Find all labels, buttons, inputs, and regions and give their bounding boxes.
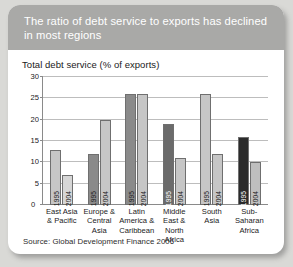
bar-year-label: 1995 [202,191,209,206]
bar: 1995 [163,124,174,205]
bar-year-label: 1995 [165,191,172,206]
chart-body: Total debt service (% of exports) 510152… [8,50,284,254]
bar: 2004 [100,120,111,205]
bar-year-label: 2004 [139,191,146,206]
y-axis-tick-label: 25 [31,93,39,102]
y-axis-tick-label: 15 [31,136,39,145]
page-title: The ratio of debt service to exports has… [24,14,270,42]
bar-year-label: 2004 [214,191,221,206]
bar: 1995 [200,94,211,205]
y-axis-tick-label: 30 [31,72,39,81]
bar-year-label: 1995 [52,191,59,206]
bar-year-label: 1995 [90,191,97,206]
source-note: Source: Global Development Finance 2006 [23,237,174,246]
bar-year-label: 2004 [252,191,259,206]
bar-group: 19952004 [231,76,269,205]
bar-group: 19952004 [118,76,156,205]
bar: 2004 [250,162,261,205]
y-axis-tick-label: 10 [31,157,39,166]
bar-group: 19952004 [43,76,81,205]
bar: 1995 [50,150,61,205]
bar-year-label: 1995 [127,191,134,206]
bar-year-label: 2004 [177,191,184,206]
bar-group: 19952004 [81,76,119,205]
y-axis-tick-label: 5 [35,178,39,187]
bar: 2004 [175,158,186,205]
bar: 1995 [88,154,99,205]
bar-year-label: 2004 [64,191,71,206]
plot-area: 51015202530 1995200419952004199520041995… [22,76,274,248]
bar: 1995 [238,137,249,205]
bar: 2004 [62,175,73,205]
y-axis-zero-label: 0 [31,200,35,209]
chart-axis-title: Total debt service (% of exports) [22,59,274,70]
bar-group: 19952004 [193,76,231,205]
bar: 2004 [137,94,148,205]
chart-header: The ratio of debt service to exports has… [8,5,284,50]
bar-year-label: 2004 [102,191,109,206]
x-axis-category-label: South Asia [193,207,231,245]
x-axis-category-label: Sub-Saharan Africa [231,207,269,245]
bar-groups: 1995200419952004199520041995200419952004… [43,76,268,205]
bar-year-label: 1995 [240,191,247,206]
bar-group: 19952004 [156,76,194,205]
y-axis-tick-label: 20 [31,114,39,123]
bar: 2004 [212,154,223,205]
bar: 1995 [125,94,136,205]
chart-card: The ratio of debt service to exports has… [8,5,284,254]
